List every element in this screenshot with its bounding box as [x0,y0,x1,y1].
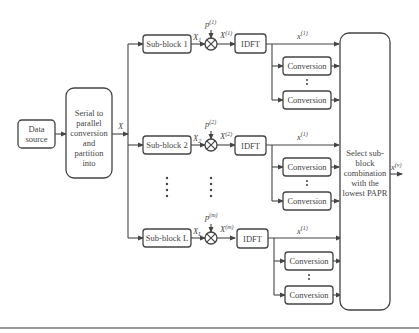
svg-text:Conversion: Conversion [289,290,329,300]
svg-text:Conversion: Conversion [287,61,327,71]
branch-L: Sub-block L XL p(m) X(m) IDFT x(1) Conve… [143,212,341,304]
svg-text:X1: X1 [192,32,201,43]
svg-text:Select sub-: Select sub- [346,148,384,158]
svg-text:into: into [82,158,95,168]
serial-to-parallel-block: Serial to parallel conversion and partit… [66,88,112,178]
svg-text:x(1): x(1) [296,225,308,236]
svg-text:conversion: conversion [70,128,108,138]
svg-text:XL: XL [192,226,202,237]
svg-text:and: and [83,138,96,148]
svg-text:source: source [25,134,47,144]
branch-1: Sub-block 1 X1 p(1) X(1) IDFT x(1) Conve… [143,19,339,109]
svg-text:p(2): p(2) [204,119,216,129]
svg-text:Conversion: Conversion [289,256,329,266]
svg-text:with the: with the [351,178,379,188]
svg-text:Conversion: Conversion [287,162,327,172]
svg-text:Data: Data [28,124,44,134]
data-source-block: Data source [18,120,55,148]
svg-text:p(1): p(1) [204,19,216,29]
svg-text:IDFT: IDFT [241,39,261,49]
svg-text:lowest PAPR: lowest PAPR [343,188,388,198]
svg-text:p(m): p(m) [204,212,218,222]
svg-text:Sub-block 2: Sub-block 2 [146,140,187,150]
output-label: x(v) [390,162,401,172]
svg-text:parallel: parallel [76,118,102,128]
svg-text:Conversion: Conversion [287,95,327,105]
selector-block: Select sub- block combination with the l… [340,33,390,310]
svg-text:IDFT: IDFT [243,234,263,244]
branch-2: Sub-block 2 X2 p(2) X(2) IDFT x(1) Conve… [143,119,339,210]
svg-text:X(2): X(2) [219,131,232,141]
ellipsis-dots [166,177,212,197]
svg-text:partition: partition [75,148,105,158]
sp-output-label: X [117,121,124,131]
svg-text:x(1): x(1) [296,131,308,142]
svg-text:x(1): x(1) [296,30,308,41]
svg-text:X(m): X(m) [219,224,234,234]
svg-text:IDFT: IDFT [241,141,261,151]
svg-text:X(1): X(1) [219,30,232,40]
svg-text:X2: X2 [192,133,201,144]
ptS-block-diagram: Data source Serial to parallel conversio… [0,0,419,333]
svg-text:Serial to: Serial to [75,108,104,118]
svg-text:combination: combination [344,168,387,178]
svg-text:Sub-block L: Sub-block L [146,233,188,243]
svg-text:block: block [356,158,376,168]
svg-text:Conversion: Conversion [287,196,327,206]
svg-text:Sub-block 1: Sub-block 1 [146,39,187,49]
